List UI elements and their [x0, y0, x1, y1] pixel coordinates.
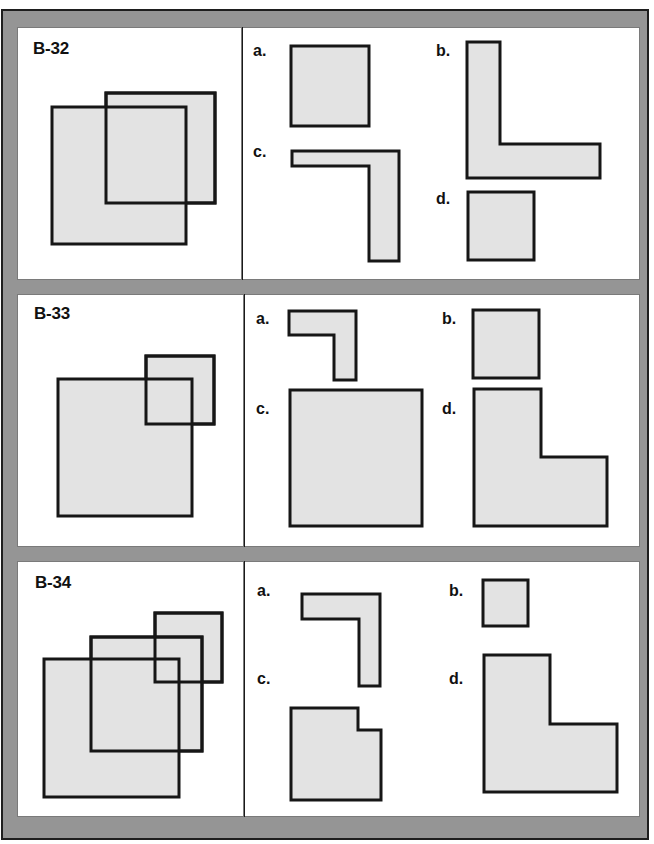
b32-options-figures: [242, 27, 640, 280]
problem-b34-options-panel: a. b. c. d.: [244, 561, 640, 817]
problem-b34-overlap-figure: [17, 561, 244, 817]
problem-b32-overlap-figure: [17, 27, 242, 280]
b33-option-b-shape[interactable]: [473, 310, 539, 378]
b32-front-square: [52, 107, 186, 244]
b34-option-c-shape[interactable]: [291, 708, 381, 800]
b34-option-b-shape[interactable]: [483, 580, 528, 626]
b34-large-front-square: [44, 659, 179, 797]
b33-option-d-shape[interactable]: [474, 389, 607, 526]
b34-options-figures: [244, 561, 640, 817]
b33-large-front-square: [58, 379, 192, 516]
problem-b33-overlap-figure: [17, 294, 244, 547]
b32-option-b-shape[interactable]: [467, 42, 600, 178]
b34-option-d-shape[interactable]: [484, 655, 617, 792]
b32-option-a-shape[interactable]: [291, 46, 369, 126]
b33-options-figures: [244, 294, 640, 547]
problem-b32-question-panel: B-32: [17, 27, 242, 280]
problem-b32-options-panel: a. b. c. d.: [242, 27, 640, 280]
b34-option-a-shape[interactable]: [302, 594, 380, 686]
b33-option-c-shape[interactable]: [290, 390, 422, 526]
problem-b34-question-panel: B-34: [17, 561, 244, 817]
problem-b33-question-panel: B-33: [17, 294, 244, 547]
b32-option-c-shape[interactable]: [292, 151, 399, 261]
b32-option-d-shape[interactable]: [468, 192, 534, 260]
problem-b33-options-panel: a. b. c. d.: [244, 294, 640, 547]
b33-option-a-shape[interactable]: [289, 311, 356, 380]
